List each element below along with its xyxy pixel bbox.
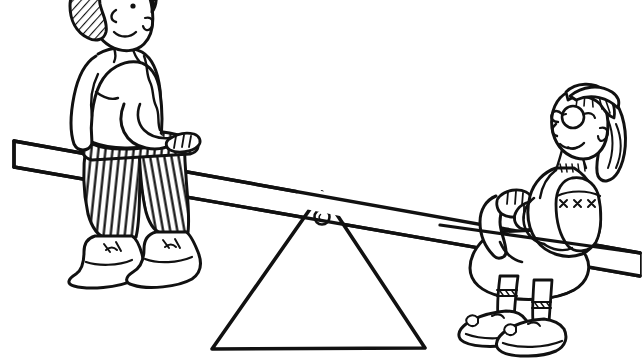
- boy-eye: [130, 3, 135, 8]
- boy-shoes: [69, 232, 201, 288]
- seesaw-illustration: [0, 0, 643, 360]
- illustration-page: Because he can't work any faster.: [0, 0, 643, 360]
- girl-glasses-bridge: [562, 114, 566, 115]
- girl-glasses-lens-right: [562, 106, 584, 128]
- girl-vest: [556, 178, 601, 251]
